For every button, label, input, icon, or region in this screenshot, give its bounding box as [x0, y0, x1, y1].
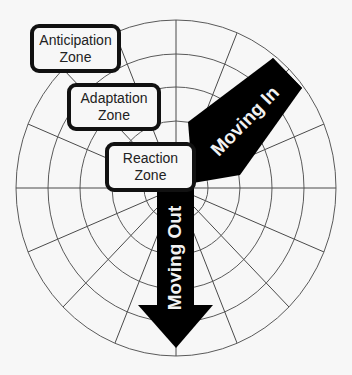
moving-out-arrow: Moving Out	[138, 188, 213, 348]
reaction-zone-line2: Zone	[135, 167, 167, 184]
anticipation-zone-box: Anticipation Zone	[30, 24, 121, 73]
adaptation-zone-line1: Adaptation	[81, 90, 148, 107]
moving-out-label: Moving Out	[164, 205, 185, 310]
anticipation-zone-line2: Zone	[60, 49, 92, 66]
moving-in-arrow: Moving In	[188, 58, 302, 183]
adaptation-zone-box: Adaptation Zone	[67, 83, 161, 131]
reaction-zone-line1: Reaction	[123, 150, 178, 167]
adaptation-zone-line2: Zone	[98, 107, 130, 124]
anticipation-zone-line1: Anticipation	[39, 32, 111, 49]
zone-diagram: Moving In Moving Out Anticipation Zone A…	[0, 0, 352, 375]
reaction-zone-box: Reaction Zone	[105, 142, 196, 192]
